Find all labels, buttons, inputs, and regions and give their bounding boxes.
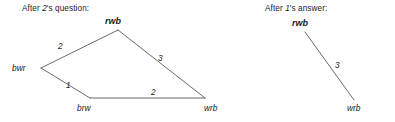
edge-label-bwr-brw: 1 (66, 81, 71, 90)
node-label-wrb: wrb (347, 103, 361, 113)
graph-right: 3rwbwrb (235, 0, 395, 122)
edge-label-rwb-wrb: 3 (158, 54, 163, 63)
edge-rwb-wrb (118, 30, 205, 98)
edge-rwb-wrb (305, 32, 354, 100)
node-label-rwb: rwb (105, 16, 122, 26)
node-label-bwr: bwr (12, 63, 27, 73)
graph-left: 2312rwbbwrbrwwrb (0, 0, 235, 122)
node-label-wrb: wrb (204, 103, 218, 113)
panel-after-1s-answer: After 1's answer: 3rwbwrb (235, 0, 395, 122)
edge-bwr-rwb (41, 30, 118, 68)
edge-label-rwb-wrb: 3 (335, 61, 340, 70)
figure-canvas: After 2's question: 2312rwbbwrbrwwrb Aft… (0, 0, 395, 122)
panel-after-2s-question: After 2's question: 2312rwbbwrbrwwrb (0, 0, 235, 122)
node-label-brw: brw (77, 103, 91, 113)
edge-label-brw-wrb: 2 (150, 88, 156, 97)
edge-label-bwr-rwb: 2 (57, 42, 63, 51)
node-label-rwb: rwb (292, 18, 309, 28)
